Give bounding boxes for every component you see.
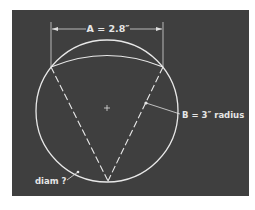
leader-line-b	[146, 103, 180, 114]
arrowhead-right-icon	[156, 27, 162, 31]
dimension-a-label: A = 2.8″	[86, 23, 130, 34]
arrowhead-left-icon	[52, 27, 58, 31]
leader-dot-diam	[77, 171, 80, 174]
radius-arc	[51, 56, 163, 68]
radius-b-label: B = 3″ radius	[182, 110, 244, 120]
geometry-diagram: A = 2.8″ B = 3″ radius diam ?	[0, 0, 255, 210]
center-plus-icon	[104, 105, 110, 111]
diameter-label: diam ?	[35, 176, 67, 186]
